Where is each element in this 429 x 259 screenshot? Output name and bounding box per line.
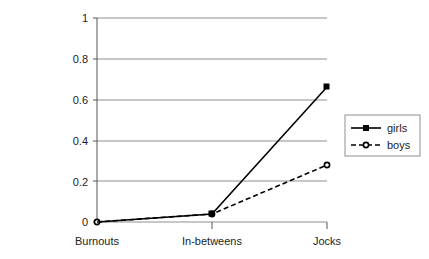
series-girls xyxy=(97,84,330,223)
series-girls-point-inbetweens xyxy=(209,211,215,217)
legend-label-girls: girls xyxy=(387,122,408,134)
gridlines xyxy=(97,18,327,181)
x-tick-label-inbetweens: In-betweens xyxy=(182,235,242,247)
legend-swatch-girls-marker xyxy=(363,125,369,131)
series-boys-point-jocks xyxy=(324,162,329,167)
y-tick-label-0.6: 0.6 xyxy=(73,94,88,106)
series-girls-line xyxy=(97,87,327,222)
line-chart: 1 0.8 0.6 0.4 0.2 0 Burnouts In-betweens… xyxy=(0,0,429,259)
chart-canvas: 1 0.8 0.6 0.4 0.2 0 Burnouts In-betweens… xyxy=(0,0,429,259)
y-tick-label-0.2: 0.2 xyxy=(73,176,88,188)
y-tick-marks xyxy=(93,18,97,222)
x-tick-label-jocks: Jocks xyxy=(313,235,342,247)
y-tick-label-0: 0 xyxy=(82,216,88,228)
legend-swatch-boys-marker xyxy=(363,142,368,147)
legend-label-boys: boys xyxy=(387,139,411,151)
x-tick-marks xyxy=(212,222,327,229)
series-girls-point-jocks xyxy=(324,84,330,90)
y-tick-label-0.4: 0.4 xyxy=(73,135,88,147)
y-tick-label-1: 1 xyxy=(82,12,88,24)
x-tick-label-burnouts: Burnouts xyxy=(75,235,120,247)
legend: girls boys xyxy=(345,115,420,156)
y-tick-label-0.8: 0.8 xyxy=(73,53,88,65)
